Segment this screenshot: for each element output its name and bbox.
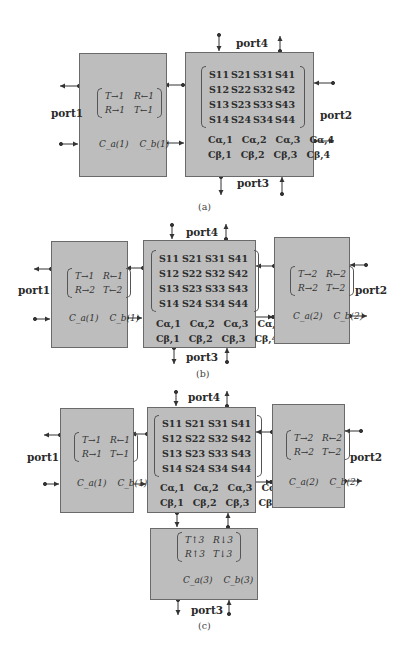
c-vector: C_a(2): [289, 477, 319, 487]
port3-label-a: port3: [237, 177, 269, 189]
s-matrix-cell: S11: [209, 67, 231, 82]
s-matrix-cell: S31: [253, 67, 275, 82]
c-alpha-cell: Cα,2: [190, 316, 215, 331]
matrix-cell: R→1: [105, 103, 125, 117]
c-vector: C_b(1): [117, 478, 147, 488]
c-beta-cell: Cβ,2: [193, 495, 217, 510]
matrix-cell: T↑3: [185, 533, 205, 547]
c-beta-cell: Cβ,1: [208, 147, 232, 162]
tr-matrix-1-c: T→1 R←1 R→1 T←1: [74, 432, 138, 462]
s-matrix-cell: S34: [205, 296, 228, 311]
c-alpha-cell: Cα,3: [276, 132, 301, 147]
port2-label-a: port2: [320, 109, 352, 121]
port2-label-c: port2: [350, 451, 382, 463]
c-alpha-cell: Cα,3: [228, 480, 253, 495]
s-matrix-cell: S41: [275, 67, 297, 82]
c-vector: C_a(2): [293, 311, 323, 321]
s-matrix-cell: S31: [205, 251, 228, 266]
tr-matrix-2-c: T→2 R←2 R→2 T←2: [286, 430, 350, 460]
port1-label-c: port1: [27, 451, 59, 463]
s-matrix-cell: S43: [231, 446, 254, 461]
s-matrix-cell: S22: [182, 266, 205, 281]
port4-label-b: port4: [186, 226, 218, 238]
matrix-cell: T→1: [105, 89, 125, 103]
matrix-cell: R→1: [82, 447, 102, 461]
matrix-cell: T←2: [326, 281, 346, 295]
s-matrix-cell: S14: [159, 296, 182, 311]
matrix-cell: R←1: [110, 433, 130, 447]
matrix-cell: T←1: [134, 103, 154, 117]
c-beta-cell: Cβ,2: [189, 331, 213, 346]
c-alpha-cell: Cα,1: [208, 132, 233, 147]
matrix-cell: R→2: [75, 283, 95, 297]
s-matrix-cell: S42: [231, 431, 254, 446]
s-matrix-c: S11S21S31S41S12S22S32S42S13S23S33S43S14S…: [154, 415, 262, 477]
matrix-cell: R↓3: [213, 533, 233, 547]
c-vector: C_b(1): [109, 313, 139, 323]
c-beta-cell: Cβ,1: [160, 495, 184, 510]
s-matrix-cell: S33: [208, 446, 231, 461]
port4-label-a: port4: [236, 37, 268, 49]
s-matrix-cell: S33: [205, 281, 228, 296]
s-matrix-cell: S44: [231, 461, 254, 476]
s-matrix-cell: S12: [162, 431, 185, 446]
c-beta-cell: Cβ,3: [222, 331, 246, 346]
s-matrix-cell: S34: [208, 461, 231, 476]
c-beta-row-b: Cβ,1Cβ,2Cβ,3Cβ,4: [156, 331, 278, 346]
s-matrix-cell: S43: [275, 97, 297, 112]
c-alpha-row-c: Cα,1Cα,2Cα,3Cα,4: [160, 480, 286, 495]
s-matrix-cell: S34: [253, 112, 275, 127]
tr-matrix-1-b: T→1 R←1 R→2 T←2: [67, 268, 131, 298]
c-beta-cell: Cβ,1: [156, 331, 180, 346]
matrix-cell: T←2: [322, 445, 342, 459]
s-matrix-cell: S12: [159, 266, 182, 281]
s-matrix-cell: S44: [228, 296, 251, 311]
matrix-cell: T→2: [298, 267, 318, 281]
s-matrix-cell: S31: [208, 416, 231, 431]
matrix-cell: T→1: [82, 433, 102, 447]
c-vectors-2-c: C_a(2) C_b(2): [289, 477, 367, 487]
s-matrix-cell: S13: [162, 446, 185, 461]
s-matrix-cell: S32: [205, 266, 228, 281]
s-matrix-cell: S13: [209, 97, 231, 112]
port1-label-b: port1: [18, 284, 50, 296]
c-vector: C_b(2): [333, 311, 363, 321]
s-matrix-cell: S12: [209, 82, 231, 97]
s-matrix-cell: S21: [231, 67, 253, 82]
tr-matrix-1-a: T→1 R←1 R→1 T←1: [97, 88, 162, 118]
c-vector: C_a(1): [77, 478, 107, 488]
matrix-cell: R←1: [134, 89, 154, 103]
c-alpha-cell: Cα,1: [160, 480, 185, 495]
s-matrix-a: S11S21S31S41S12S22S32S42S13S23S33S43S14S…: [201, 66, 305, 128]
s-matrix-cell: S22: [185, 431, 208, 446]
s-matrix-cell: S44: [275, 112, 297, 127]
c-beta-row-a: Cβ,1Cβ,2Cβ,3Cβ,4: [208, 147, 330, 162]
port3-label-c: port3: [191, 604, 223, 616]
c-alpha-cell: Cα,3: [224, 316, 249, 331]
c-vector: C_a(1): [69, 313, 99, 323]
c-alpha-row-a: Cα,1Cα,2Cα,3Cα,4: [208, 132, 334, 147]
c-beta-cell: Cβ,2: [241, 147, 265, 162]
c-alpha-cell: Cα,2: [242, 132, 267, 147]
caption-a: (a): [198, 201, 211, 212]
matrix-cell: R→2: [298, 281, 318, 295]
matrix-cell: T→2: [294, 431, 314, 445]
port2-label-b: port2: [355, 284, 387, 296]
c-vector: C_a(3): [183, 575, 213, 585]
s-matrix-cell: S41: [228, 251, 251, 266]
s-matrix-cell: S24: [182, 296, 205, 311]
matrix-cell: R→2: [294, 445, 314, 459]
matrix-cell: R↑3: [185, 547, 205, 561]
tr-matrix-3-c: T↑3 R↓3 R↑3 T↓3: [177, 532, 241, 562]
c-alpha-cell: Cα,4: [309, 132, 334, 147]
s-matrix-cell: S32: [208, 431, 231, 446]
s-matrix-cell: S11: [162, 416, 185, 431]
port1-label-a: port1: [51, 107, 83, 119]
caption-c: (c): [198, 620, 211, 631]
s-matrix-cell: S23: [182, 281, 205, 296]
c-alpha-cell: Cα,1: [156, 316, 181, 331]
s-matrix-cell: S24: [185, 461, 208, 476]
s-matrix-cell: S42: [228, 266, 251, 281]
c-alpha-row-b: Cα,1Cα,2Cα,3Cα,4: [156, 316, 282, 331]
s-matrix-cell: S14: [162, 461, 185, 476]
